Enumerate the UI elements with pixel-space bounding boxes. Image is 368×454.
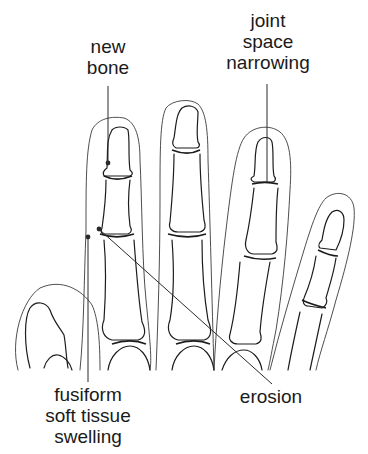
middle-finger — [156, 101, 214, 370]
label-line: soft tissue — [28, 405, 148, 426]
label-line: bone — [72, 57, 144, 78]
label-line: fusiform — [28, 384, 148, 405]
label-joint-space-narrowing: joint space narrowing — [218, 10, 318, 73]
label-fusiform-soft-tissue-swelling: fusiform soft tissue swelling — [28, 384, 148, 447]
label-line: erosion — [226, 386, 316, 407]
label-line: space — [218, 31, 318, 52]
label-line: swelling — [28, 426, 148, 447]
diagram-canvas: new bone joint space narrowing fusiform … — [0, 0, 368, 454]
label-line: new — [72, 36, 144, 57]
label-line: joint — [218, 10, 318, 31]
label-line: narrowing — [218, 52, 318, 73]
label-new-bone: new bone — [72, 36, 144, 78]
new-bone-marker — [106, 161, 111, 166]
ring-finger — [214, 127, 291, 370]
erosion-marker — [97, 227, 102, 232]
thumb — [15, 284, 100, 370]
label-erosion: erosion — [226, 386, 316, 407]
swelling-marker — [86, 235, 91, 240]
